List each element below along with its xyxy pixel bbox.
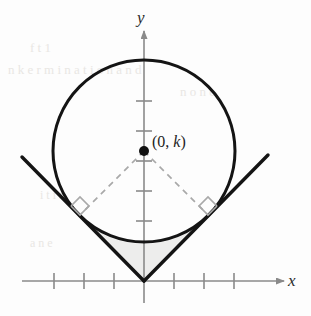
right-angle-marker-left [71, 197, 89, 215]
right-angle-marker-right [199, 197, 217, 215]
center-point-dot [139, 146, 149, 156]
x-axis [22, 273, 284, 289]
x-axis-label: x [288, 271, 296, 291]
center-label-prefix: (0, [152, 133, 173, 150]
center-label-suffix: ) [180, 133, 185, 150]
y-axis-label: y [137, 8, 145, 28]
diagram-canvas [0, 0, 311, 316]
geometry-figure: f t 1 n k e r m i n a t i o n a n d n o … [0, 0, 311, 316]
center-point-label: (0, k) [152, 133, 186, 151]
v-ray-right [144, 155, 268, 281]
v-ray-left [22, 157, 144, 281]
